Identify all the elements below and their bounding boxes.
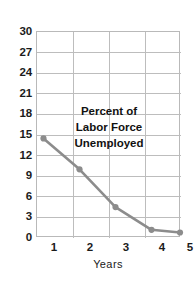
data-point xyxy=(177,229,183,235)
y-tick-label: 6 xyxy=(2,191,32,202)
x-tick-label: 5 xyxy=(178,241,196,253)
y-axis-tick-labels: 30 27 24 21 18 15 12 9 6 3 0 xyxy=(0,0,32,284)
y-tick-label: 18 xyxy=(2,108,32,119)
x-tick-label: 3 xyxy=(114,241,138,253)
y-tick-label: 15 xyxy=(2,129,32,140)
y-tick-label: 12 xyxy=(2,150,32,161)
data-point xyxy=(40,135,46,141)
data-point xyxy=(148,227,154,233)
data-point xyxy=(76,166,82,172)
y-tick-label: 0 xyxy=(2,232,32,243)
x-axis-title: Years xyxy=(36,258,180,270)
unemployment-line-chart: 30 27 24 21 18 15 12 9 6 3 0 xyxy=(0,0,196,284)
series-markers xyxy=(40,135,183,235)
x-tick-label: 4 xyxy=(150,241,174,253)
series-line xyxy=(44,138,181,232)
y-tick-label: 21 xyxy=(2,88,32,99)
data-point xyxy=(112,204,118,210)
y-tick-label: 9 xyxy=(2,170,32,181)
data-series xyxy=(37,32,181,238)
y-tick-label: 27 xyxy=(2,47,32,58)
plot-area xyxy=(36,31,180,237)
y-tick-label: 30 xyxy=(2,26,32,37)
y-tick-label: 24 xyxy=(2,67,32,78)
x-tick-label: 2 xyxy=(78,241,102,253)
x-tick-label: 1 xyxy=(42,241,66,253)
y-tick-label: 3 xyxy=(2,211,32,222)
